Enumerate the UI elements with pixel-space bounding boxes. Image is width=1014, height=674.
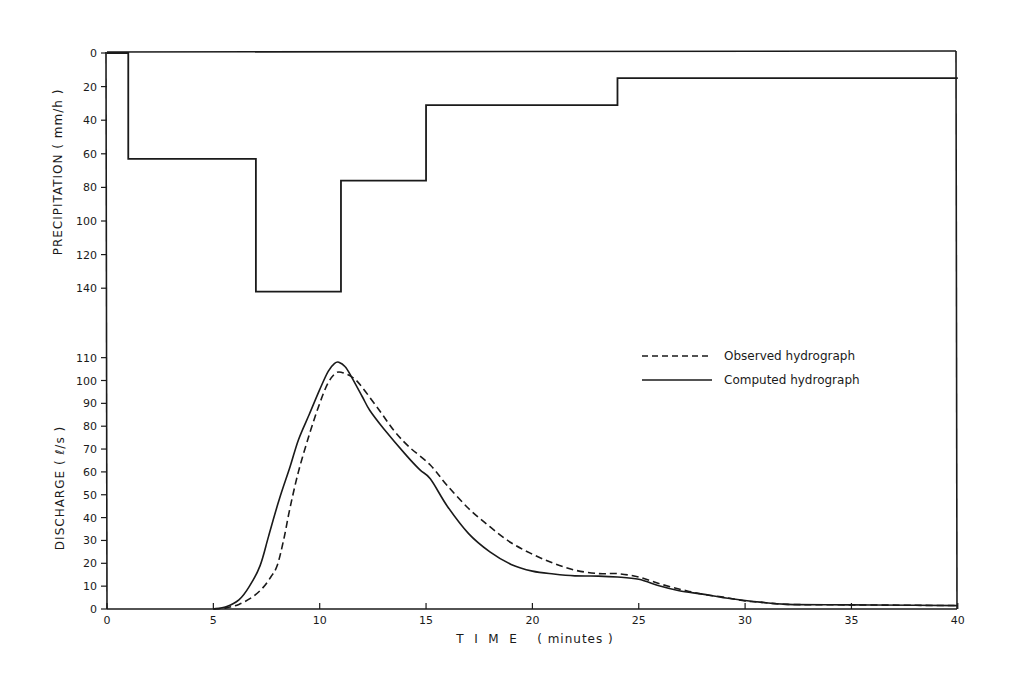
time-tick-label: 30 [738, 614, 752, 627]
time-tick-label: 10 [313, 614, 327, 627]
discharge-y-axis-ticks: 0102030405060708090100110 [76, 352, 107, 616]
top-border [107, 51, 956, 52]
plot-frame [106, 51, 957, 609]
time-x-axis-ticks: 0510152025303540 [104, 603, 965, 627]
discharge-tick-label: 70 [83, 443, 97, 456]
legend-computed-label: Computed hydrograph [724, 373, 860, 387]
time-axis-title: T I M E ( minutes ) [455, 632, 614, 646]
discharge-tick-label: 50 [83, 489, 97, 502]
time-tick-label: 20 [525, 614, 539, 627]
precip-tick-label: 20 [83, 81, 97, 94]
discharge-tick-label: 100 [76, 375, 97, 388]
discharge-tick-label: 10 [83, 580, 97, 593]
precipitation-axis-title: PRECIPITATION ( mm/h ) [51, 89, 65, 256]
legend: Observed hydrograph Computed hydrograph [642, 349, 860, 387]
precip-tick-label: 100 [76, 215, 97, 228]
left-axis [106, 52, 107, 609]
precip-tick-label: 120 [76, 249, 97, 262]
precip-tick-label: 60 [83, 148, 97, 161]
time-tick-label: 0 [104, 614, 111, 627]
time-tick-label: 40 [951, 614, 965, 627]
discharge-tick-label: 90 [83, 397, 97, 410]
precip-tick-label: 80 [83, 181, 97, 194]
discharge-tick-label: 40 [83, 512, 97, 525]
time-tick-label: 25 [632, 614, 646, 627]
observed-hydrograph-line [213, 372, 958, 609]
precip-tick-label: 140 [76, 282, 97, 295]
right-border [956, 51, 957, 609]
computed-hydrograph-line [213, 362, 958, 609]
time-tick-label: 5 [210, 614, 217, 627]
discharge-tick-label: 30 [83, 534, 97, 547]
discharge-tick-label: 80 [83, 420, 97, 433]
discharge-tick-label: 0 [90, 603, 97, 616]
precip-tick-label: 0 [90, 47, 97, 60]
precip-tick-label: 40 [83, 114, 97, 127]
hydrograph-figure: 020406080100120140 010203040506070809010… [0, 0, 1014, 674]
legend-observed-label: Observed hydrograph [724, 349, 855, 363]
time-tick-label: 15 [419, 614, 433, 627]
discharge-tick-label: 20 [83, 557, 97, 570]
discharge-tick-label: 60 [83, 466, 97, 479]
time-tick-label: 35 [844, 614, 858, 627]
precipitation-y-axis-ticks: 020406080100120140 [76, 47, 107, 295]
discharge-axis-title: DISCHARGE ( ℓ/s ) [53, 426, 67, 550]
discharge-tick-label: 110 [76, 352, 97, 365]
precipitation-hyetograph [107, 53, 958, 292]
